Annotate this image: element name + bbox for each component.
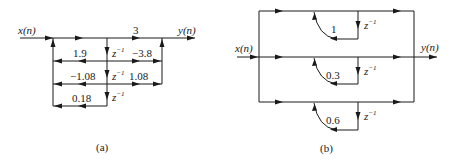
arrow-right-icon <box>187 36 195 41</box>
arrow-right-icon <box>75 36 83 41</box>
a-forward-gain-1: −3.8 <box>132 47 152 59</box>
arrow-down-icon <box>356 112 361 120</box>
b-input-label: x(n) <box>234 42 253 55</box>
signal-flow-diagrams: x(n) y(n) 3 1.9 −1.08 0.18 −3.8 1.08 z−1… <box>0 0 450 162</box>
arrow-up-icon <box>312 59 317 66</box>
arrow-left-icon <box>330 81 337 86</box>
a-gain-direct: 3 <box>133 24 139 36</box>
arrow-right-icon <box>393 55 401 60</box>
arrow-right-icon <box>250 55 258 60</box>
b-feedback-gain-3: 0.6 <box>326 114 340 126</box>
a-feedback-gain-1: 1.9 <box>73 47 87 59</box>
arrow-right-icon <box>153 59 161 64</box>
a-feedback-gain-2: −1.08 <box>70 70 96 82</box>
arrow-right-icon <box>429 55 437 60</box>
figure-b: x(n) y(n) 1 0.3 0.6 z−1 z−1 z−1 (b) <box>234 9 439 156</box>
arrow-right-icon <box>45 36 53 41</box>
arrow-down-icon <box>105 47 110 55</box>
arrow-left-icon <box>330 127 337 132</box>
arrow-right-icon <box>393 100 401 105</box>
arrow-down-icon <box>105 92 110 100</box>
arrow-up-icon <box>51 39 56 47</box>
arrow-up-icon <box>160 39 165 47</box>
b-feedback-gain-2: 0.3 <box>326 69 340 81</box>
arrow-right-icon <box>275 55 283 60</box>
b-caption: (b) <box>320 142 333 155</box>
a-delay-2: z−1 <box>111 69 125 82</box>
arrow-left-icon <box>54 59 62 64</box>
b-delay-label-3: z−1 <box>363 109 377 122</box>
arrow-right-icon <box>275 9 283 14</box>
arrow-down-icon <box>105 70 110 78</box>
arrow-down-icon <box>356 67 361 75</box>
arrow-right-icon <box>275 100 283 105</box>
a-output-label: y(n) <box>177 24 196 37</box>
figure-a: x(n) y(n) 3 1.9 −1.08 0.18 −3.8 1.08 z−1… <box>17 24 196 154</box>
arrow-left-icon <box>78 82 86 87</box>
arrow-right-icon <box>132 82 140 87</box>
a-delay-1: z−1 <box>111 46 125 59</box>
b-output-label: y(n) <box>420 41 439 54</box>
b-delay-label-1: z−1 <box>363 18 377 31</box>
arrow-left-icon <box>78 104 86 109</box>
arrow-right-icon <box>132 36 140 41</box>
a-delay-3: z−1 <box>111 90 125 103</box>
arrow-right-icon <box>132 59 140 64</box>
a-input-label: x(n) <box>17 24 36 37</box>
arrow-right-icon <box>153 82 161 87</box>
b-delay-label-2: z−1 <box>363 64 377 77</box>
arrow-up-icon <box>312 13 317 20</box>
a-caption: (a) <box>96 141 109 154</box>
arrow-left-icon <box>54 82 62 87</box>
a-forward-gain-2: 1.08 <box>129 70 149 82</box>
arrow-up-icon <box>312 104 317 111</box>
b-feedback-gain-1: 1 <box>331 23 337 35</box>
a-feedback-gain-3: 0.18 <box>72 92 92 104</box>
arrow-left-icon <box>54 104 62 109</box>
arrow-left-icon <box>330 36 337 41</box>
arrow-left-icon <box>78 59 86 64</box>
arrow-down-icon <box>356 21 361 29</box>
arrow-right-icon <box>393 9 401 14</box>
